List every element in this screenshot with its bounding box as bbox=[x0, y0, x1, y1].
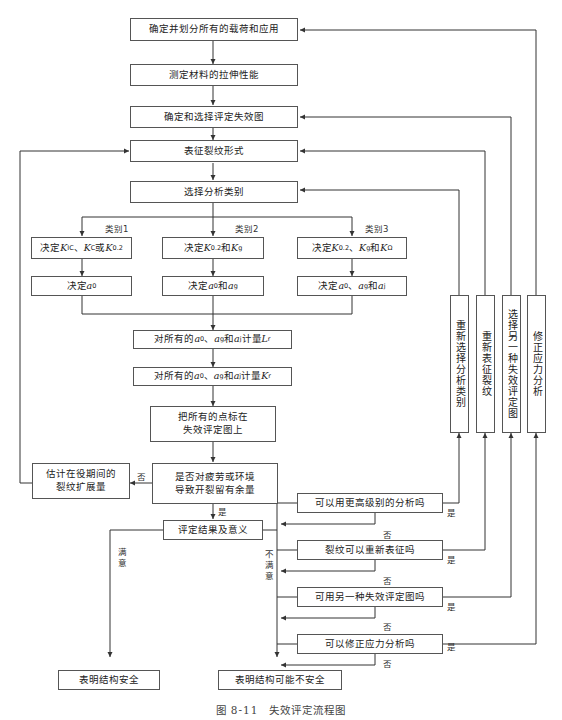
question-higher-level-analysis: 可以用更高级别的分析吗 bbox=[297, 493, 443, 513]
label-unsatisfied: 不满意 bbox=[262, 550, 274, 583]
node-calc-kr: 对所有的a0、ag和aj计量Kr bbox=[133, 367, 292, 386]
node-select-category: 选择分析类别 bbox=[130, 181, 298, 203]
label-satisfied: 满意 bbox=[115, 548, 127, 570]
label-no-q4: 否 bbox=[383, 657, 392, 669]
question-recharacterize-crack: 裂纹可以重新表征吗 bbox=[297, 540, 443, 560]
label-yes-fatigue: 是 bbox=[218, 505, 227, 517]
side-reselect-category: 重新选择分析类别 bbox=[450, 295, 469, 433]
node-characterize-crack: 表征裂纹形式 bbox=[130, 140, 298, 162]
node-structure-maybe-unsafe: 表明结构可能不安全 bbox=[218, 670, 342, 690]
node-select-fad: 确定和选择评定失效图 bbox=[130, 106, 298, 128]
node-estimate-growth: 估计在役期间的 裂纹扩展量 bbox=[32, 463, 130, 499]
label-no-q1: 否 bbox=[383, 528, 392, 540]
label-category-2: 类别2 bbox=[235, 222, 258, 234]
node-calc-lr: 对所有的a0、ag和aj计量Lr bbox=[133, 330, 292, 349]
node-tensile-properties: 测定材料的拉伸性能 bbox=[130, 64, 298, 86]
side-other-fad: 选择另一种失效评定图 bbox=[502, 295, 521, 433]
side-modify-stress: 修正应力分析 bbox=[527, 295, 546, 433]
node-structure-safe: 表明结构安全 bbox=[58, 670, 160, 690]
label-category-3: 类别3 bbox=[365, 222, 388, 234]
label-no-q3: 否 bbox=[383, 620, 392, 632]
label-yes-q4: 是 bbox=[447, 640, 456, 652]
node-cat3-determine-k: 决定K0.2、Kg和KΩ bbox=[297, 237, 407, 259]
label-category-1: 类别1 bbox=[105, 222, 128, 234]
label-yes-q1: 是 bbox=[447, 506, 456, 518]
node-cat2-determine-a: 决定a0和ag bbox=[162, 276, 264, 296]
question-other-fad: 可用另一种失效评定图吗 bbox=[297, 587, 443, 607]
node-cat1-determine-a: 决定a0 bbox=[31, 276, 132, 296]
label-no-fatigue: 否 bbox=[137, 470, 146, 482]
question-modify-stress: 可以修正应力分析吗 bbox=[297, 634, 443, 654]
node-define-loads: 确定并划分所有的载荷和应用 bbox=[130, 18, 298, 41]
node-cat3-determine-a: 决定a0、ag和aj bbox=[297, 276, 407, 296]
node-cat1-determine-k: 决定KIC、KC或K0.2 bbox=[31, 237, 132, 259]
side-recharacterize-crack: 重新表征裂纹 bbox=[476, 295, 495, 433]
node-plot-points: 把所有的点标在 失效评定图上 bbox=[150, 406, 276, 442]
label-no-q2: 否 bbox=[383, 574, 392, 586]
label-yes-q3: 是 bbox=[447, 600, 456, 612]
figure-caption: 图 8-11 失效评定流程图 bbox=[0, 702, 562, 717]
node-results: 评定结果及意义 bbox=[163, 520, 263, 540]
label-yes-q2: 是 bbox=[447, 553, 456, 565]
node-cat2-determine-k: 决定K0.2和Kg bbox=[162, 237, 264, 259]
node-fatigue-allowance: 是否对疲劳或环境 导致开裂留有余量 bbox=[152, 463, 278, 504]
